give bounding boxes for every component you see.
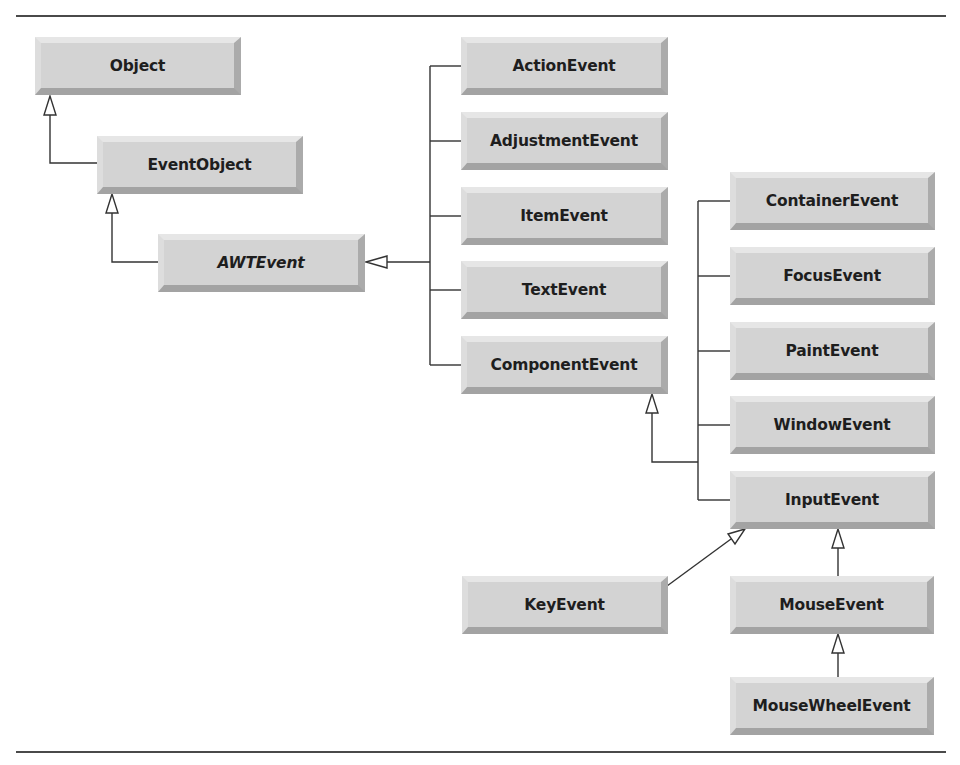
class-box-mouseevent: MouseEvent xyxy=(730,576,934,634)
edge-awtevent-eventobject xyxy=(112,213,158,262)
class-label: TextEvent xyxy=(522,281,606,299)
edge-eventobject-object xyxy=(50,115,97,163)
class-box-adjustmentevent: AdjustmentEvent xyxy=(461,112,668,170)
class-label: MouseWheelEvent xyxy=(753,697,911,715)
class-box-inputevent: InputEvent xyxy=(730,471,935,529)
arrowhead-inputevent xyxy=(832,529,844,548)
arrowhead-object xyxy=(44,96,56,115)
class-box-paintevent: PaintEvent xyxy=(730,322,935,380)
arrowhead-eventobject xyxy=(106,194,118,213)
class-label: AWTEvent xyxy=(218,254,305,272)
class-box-eventobject: EventObject xyxy=(97,136,303,194)
class-label: PaintEvent xyxy=(786,342,879,360)
class-label: EventObject xyxy=(147,156,251,174)
arrowhead-componentevent xyxy=(646,394,658,413)
class-label: AdjustmentEvent xyxy=(490,132,638,150)
class-label: FocusEvent xyxy=(783,267,881,285)
class-label: WindowEvent xyxy=(774,416,891,434)
edge-bus-componentevent xyxy=(652,413,698,462)
class-label: ComponentEvent xyxy=(491,356,638,374)
class-box-focusevent: FocusEvent xyxy=(730,247,935,305)
class-label: ContainerEvent xyxy=(766,192,898,210)
class-box-textevent: TextEvent xyxy=(461,261,668,319)
class-box-containerevent: ContainerEvent xyxy=(730,172,935,230)
class-box-mousewheelevent: MouseWheelEvent xyxy=(730,677,934,735)
class-label: InputEvent xyxy=(785,491,879,509)
arrowhead-mouseevent xyxy=(832,634,844,653)
class-box-windowevent: WindowEvent xyxy=(730,396,935,454)
arrowhead-awtevent xyxy=(366,256,387,268)
edge-keyevent-inputevent xyxy=(667,539,731,586)
class-box-awtevent: AWTEvent xyxy=(158,234,365,292)
class-box-keyevent: KeyEvent xyxy=(462,576,668,634)
arrowhead-inputevent-diag xyxy=(728,529,745,544)
class-label: ItemEvent xyxy=(520,207,608,225)
class-label: ActionEvent xyxy=(512,57,615,75)
class-label: Object xyxy=(110,57,166,75)
class-label: KeyEvent xyxy=(524,596,604,614)
class-box-object: Object xyxy=(35,37,241,95)
class-label: MouseEvent xyxy=(779,596,884,614)
class-box-componentevent: ComponentEvent xyxy=(461,336,668,394)
class-box-itemevent: ItemEvent xyxy=(461,187,668,245)
class-box-actionevent: ActionEvent xyxy=(461,37,668,95)
